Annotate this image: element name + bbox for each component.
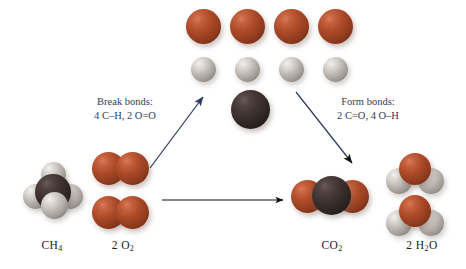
oxygen-atom	[399, 153, 431, 185]
break-bonds-line2: 4 C–H, 2 O=O	[94, 109, 156, 123]
methane-molecule	[14, 162, 92, 228]
oxygen-atom	[116, 152, 149, 185]
dioxygen-label-sub: 2	[130, 244, 134, 253]
hydrogen-atom	[41, 192, 68, 219]
water-label: 2 H2O	[389, 239, 455, 253]
dioxygen-label-text: 2 O	[112, 239, 130, 251]
form-bonds-label: Form bonds: 2 C=O, 4 O–H	[337, 95, 399, 122]
dioxygen-group	[92, 152, 154, 236]
water-label-text: 2 H	[406, 239, 424, 251]
carbon-dioxide-label-sub: 2	[338, 244, 342, 253]
oxygen-atom	[399, 195, 431, 227]
form-bonds-line2: 2 C=O, 4 O–H	[337, 109, 399, 123]
hydrogen-atom	[279, 57, 304, 82]
oxygen-atom	[116, 196, 149, 229]
diagram-canvas: Break bonds: 4 C–H, 2 O=O Form bonds: 2 …	[0, 0, 466, 269]
methane-label-text: CH	[41, 239, 58, 251]
form-bonds-line1: Form bonds:	[337, 95, 399, 109]
break-bonds-label: Break bonds: 4 C–H, 2 O=O	[94, 95, 156, 122]
methane-label: CH4	[22, 239, 82, 253]
carbon-dioxide-molecule	[291, 176, 373, 224]
hydrogen-atom	[235, 57, 260, 82]
oxygen-atom	[186, 9, 221, 44]
oxygen-atom	[318, 9, 353, 44]
carbon-atom	[231, 90, 270, 129]
methane-label-sub: 4	[58, 244, 62, 253]
oxygen-atom	[230, 9, 265, 44]
carbon-dioxide-label: CO2	[302, 239, 362, 253]
carbon-atom	[312, 176, 351, 215]
break-bonds-line1: Break bonds:	[94, 95, 156, 109]
hydrogen-atom	[191, 57, 216, 82]
water-label-tail: O	[429, 239, 438, 251]
break-bonds-arrow	[150, 97, 203, 168]
dioxygen-label: 2 O2	[93, 239, 153, 253]
carbon-dioxide-label-text: CO	[321, 239, 338, 251]
hydrogen-atom	[323, 57, 348, 82]
water-group	[386, 152, 458, 238]
oxygen-atom	[274, 9, 309, 44]
